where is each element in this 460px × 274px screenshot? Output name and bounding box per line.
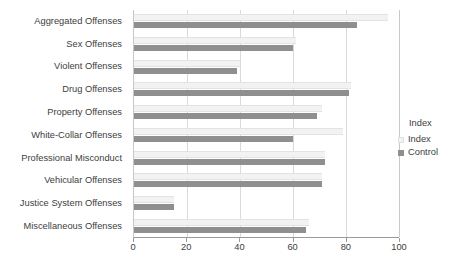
bar-control [134, 227, 306, 233]
category-label: Sex Offenses [0, 33, 128, 56]
category-label-text: Vehicular Offenses [44, 176, 122, 185]
bar-index [134, 128, 343, 135]
legend-item[interactable]: Index [398, 135, 460, 144]
bar-control [134, 159, 325, 165]
x-tick-label: 40 [234, 243, 244, 252]
bar-control [134, 90, 349, 96]
category-label: Property Offenses [0, 101, 128, 124]
category-label-text: Professional Misconduct [21, 154, 122, 163]
category-axis: Aggregated OffensesSex OffensesViolent O… [0, 10, 128, 238]
legend: Index IndexControl [398, 118, 460, 162]
category-label: Aggregated Offenses [0, 10, 128, 33]
x-tick-label: 0 [130, 243, 135, 252]
bar-control [134, 22, 357, 28]
category-label: Justice System Offenses [0, 192, 128, 215]
legend-title: Index [398, 118, 460, 128]
category-label: White-Collar Offenses [0, 124, 128, 147]
bar-group [134, 124, 399, 147]
category-label-text: Justice System Offenses [20, 199, 122, 208]
plot-area [133, 10, 399, 238]
bar-index [134, 173, 322, 180]
category-label: Professional Misconduct [0, 147, 128, 170]
x-tick-label: 60 [287, 243, 297, 252]
bar-group [134, 169, 399, 192]
category-label-text: Sex Offenses [66, 40, 122, 49]
category-label: Vehicular Offenses [0, 170, 128, 193]
bar-control [134, 204, 174, 210]
x-axis-labels: 020406080100 [133, 243, 399, 259]
bar-index [134, 151, 325, 158]
category-label-text: Property Offenses [47, 108, 122, 117]
bar-index [134, 60, 240, 67]
category-label-text: Miscellaneous Offenses [23, 222, 122, 231]
bar-index [134, 219, 309, 226]
legend-swatch-icon [398, 137, 404, 143]
category-label-text: Violent Offenses [54, 62, 122, 71]
x-tick-label: 100 [391, 243, 407, 252]
legend-item-label: Control [408, 148, 438, 157]
x-tick-label: 20 [181, 243, 191, 252]
bar-index [134, 196, 174, 203]
bar-control [134, 181, 322, 187]
bar-control [134, 113, 317, 119]
legend-item[interactable]: Control [398, 148, 460, 157]
bar-control [134, 136, 293, 142]
bar-group [134, 214, 399, 237]
bar-index [134, 37, 296, 44]
category-label-text: White-Collar Offenses [31, 131, 122, 140]
x-tick-label: 80 [341, 243, 351, 252]
bar-group [134, 55, 399, 78]
category-label-text: Drug Offenses [62, 85, 122, 94]
category-label: Drug Offenses [0, 78, 128, 101]
bar-group [134, 33, 399, 56]
category-label-text: Aggregated Offenses [34, 17, 122, 26]
legend-swatch-icon [398, 150, 404, 156]
legend-item-label: Index [408, 135, 431, 144]
bar-group [134, 146, 399, 169]
bar-group [134, 10, 399, 33]
bar-control [134, 68, 237, 74]
bar-index [134, 14, 388, 21]
legend-items: IndexControl [398, 135, 460, 158]
bar-index [134, 105, 322, 112]
bar-index [134, 82, 351, 89]
bar-control [134, 45, 293, 51]
bar-chart: Aggregated OffensesSex OffensesViolent O… [0, 0, 460, 274]
bar-group [134, 192, 399, 215]
bars-layer [134, 10, 399, 237]
bar-group [134, 101, 399, 124]
category-label: Violent Offenses [0, 56, 128, 79]
bar-group [134, 78, 399, 101]
category-label: Miscellaneous Offenses [0, 215, 128, 238]
